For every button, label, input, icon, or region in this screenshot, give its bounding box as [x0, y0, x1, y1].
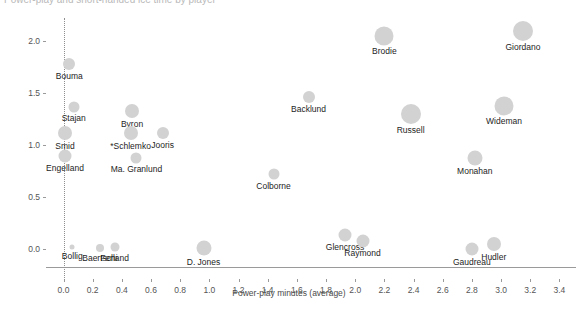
x-axis-tick-label: 1.4 [262, 285, 274, 295]
data-point[interactable] [131, 152, 142, 163]
x-axis-tick-label: 3.2 [524, 285, 536, 295]
data-point[interactable] [110, 243, 119, 252]
data-point-label: Russell [397, 125, 425, 135]
data-point[interactable] [339, 228, 352, 241]
y-axis-tick-mark [43, 93, 46, 94]
data-point[interactable] [58, 126, 72, 140]
y-axis-tick-mark [43, 41, 46, 42]
x-axis-tick-mark [530, 279, 531, 282]
data-point-label: Raymond [344, 248, 380, 258]
plot-area: 0.00.51.01.52.00.00.20.40.60.81.01.21.41… [46, 12, 574, 267]
data-point[interactable] [401, 104, 421, 124]
data-point-label: D. Jones [187, 257, 221, 267]
scatter-chart: Power-play and short-handed ice time by … [0, 0, 578, 317]
clipped-title-strip: Power-play and short-handed ice time by … [0, 0, 578, 9]
x-axis-tick-mark [297, 279, 298, 282]
data-point[interactable] [125, 104, 139, 118]
data-point[interactable] [124, 126, 138, 140]
data-point-label: Ma. Granlund [111, 164, 163, 174]
x-axis-tick-mark [443, 279, 444, 282]
x-axis-tick-label: 0.4 [116, 285, 128, 295]
x-axis-tick-mark [239, 279, 240, 282]
y-axis-tick-mark [43, 197, 46, 198]
x-axis-tick-label: 0.2 [87, 285, 99, 295]
x-axis-tick-mark [472, 279, 473, 282]
data-point[interactable] [157, 127, 169, 139]
data-point[interactable] [487, 237, 501, 251]
data-point[interactable] [375, 26, 394, 45]
y-axis-tick-mark [43, 145, 46, 146]
data-point-label: Backlund [291, 104, 326, 114]
x-axis-tick-label: 0.0 [58, 285, 70, 295]
data-point-label: Wideman [486, 116, 522, 126]
x-axis-tick-mark [122, 279, 123, 282]
data-point-label: Giordano [505, 42, 540, 52]
x-axis-tick-mark [326, 279, 327, 282]
plot-background [46, 12, 574, 267]
data-point-label: Brodie [372, 46, 397, 56]
x-axis-tick-mark [559, 279, 560, 282]
data-point[interactable] [196, 241, 211, 256]
x-axis-line [46, 267, 576, 268]
data-point-label: *Schlemko [110, 141, 151, 151]
x-axis-tick-label: 1.6 [291, 285, 303, 295]
x-axis-tick-label: 2.8 [466, 285, 478, 295]
data-point-label: Jooris [151, 140, 174, 150]
x-axis-tick-label: 1.8 [320, 285, 332, 295]
data-point[interactable] [303, 91, 315, 103]
data-point-label: Monahan [457, 166, 492, 176]
data-point-label: Gaudreau [453, 257, 491, 267]
data-point-label: Bouma [56, 71, 83, 81]
data-point-label: Colborne [256, 181, 291, 191]
chart-clipped-title: Power-play and short-handed ice time by … [4, 0, 216, 5]
data-point[interactable] [68, 101, 79, 112]
x-axis-tick-label: 0.8 [174, 285, 186, 295]
data-point-label: Engelland [46, 163, 84, 173]
x-axis-tick-label: 0.6 [145, 285, 157, 295]
x-axis-tick-label: 2.4 [408, 285, 420, 295]
data-point[interactable] [356, 234, 369, 247]
x-axis-tick-mark [414, 279, 415, 282]
x-axis-tick-label: 2.0 [349, 285, 361, 295]
y-axis-tick-mark [43, 249, 46, 250]
x-axis-tick-mark [384, 279, 385, 282]
x-axis-tick-mark [180, 279, 181, 282]
data-point[interactable] [70, 245, 75, 250]
data-point[interactable] [268, 169, 279, 180]
x-axis-tick-mark [501, 279, 502, 282]
data-point[interactable] [58, 149, 71, 162]
data-point[interactable] [513, 21, 533, 41]
x-axis-tick-mark [209, 279, 210, 282]
x-axis-tick-mark [151, 279, 152, 282]
data-point[interactable] [63, 58, 75, 70]
y-axis-title-wrap: Short-handed minutes (average) [0, 12, 14, 267]
x-axis-tick-mark [268, 279, 269, 282]
data-point[interactable] [465, 243, 478, 256]
x-axis-tick-label: 2.2 [378, 285, 390, 295]
x-axis-tick-label: 3.0 [495, 285, 507, 295]
x-axis-tick-label: 3.4 [553, 285, 565, 295]
data-point-label: Stajan [62, 113, 86, 123]
data-point-label: Bollig [62, 251, 83, 261]
x-axis-tick-label: 2.6 [437, 285, 449, 295]
data-point-label: Ferland [100, 253, 129, 263]
data-point[interactable] [494, 96, 513, 115]
data-point[interactable] [96, 244, 104, 252]
x-axis-tick-mark [93, 279, 94, 282]
x-axis-tick-label: 1.0 [203, 285, 215, 295]
x-axis-tick-label: 1.2 [233, 285, 245, 295]
data-point[interactable] [467, 150, 482, 165]
x-axis-tick-mark [355, 279, 356, 282]
